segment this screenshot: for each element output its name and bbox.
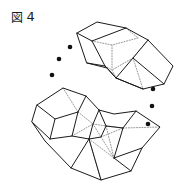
ellipsis-dot: [151, 87, 156, 92]
figure-container: 図4: [0, 0, 189, 185]
ellipsis-dot: [146, 122, 151, 127]
ellipsis-dot: [57, 57, 62, 62]
lower-polyhedron-chain: [32, 88, 160, 180]
ellipsis-dot: [50, 73, 55, 78]
ellipsis-dot: [68, 45, 73, 50]
technical-drawing: [0, 0, 189, 185]
left-ellipsis-arc: [50, 45, 73, 78]
upper-polyhedron: [77, 22, 173, 89]
ellipsis-dot: [150, 104, 155, 109]
